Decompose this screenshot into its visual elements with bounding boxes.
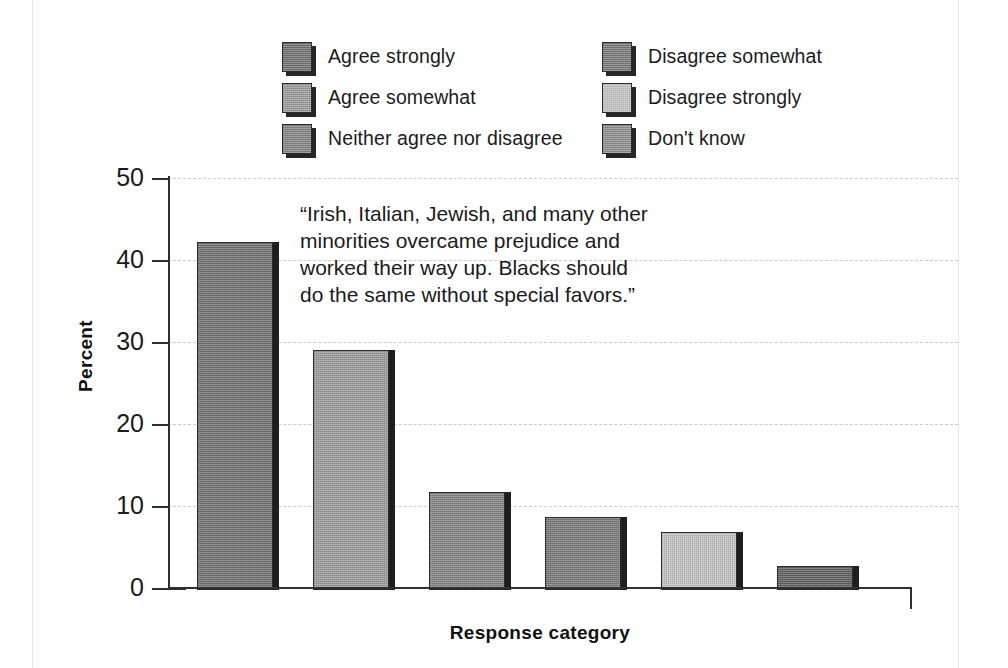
gridline	[168, 424, 958, 425]
y-axis-tick-label: 20	[92, 411, 144, 436]
y-axis-tick-label: 30	[92, 329, 144, 354]
gridline	[168, 178, 958, 179]
bar[interactable]	[313, 350, 389, 590]
bar-chart-plot: 50403020100 Percent Response category “I…	[0, 0, 1008, 668]
bar[interactable]	[661, 532, 737, 590]
y-axis-title: Percent	[75, 266, 97, 446]
y-axis-tick-label: 40	[92, 247, 144, 272]
y-axis-tick-label: 0	[92, 575, 144, 600]
bar[interactable]	[545, 517, 621, 590]
y-axis-line	[168, 176, 170, 590]
y-axis-tick-label: 50	[92, 165, 144, 190]
y-axis-tick-label: 10	[92, 493, 144, 518]
gridline	[168, 342, 958, 343]
gridline	[168, 506, 958, 507]
bar[interactable]	[197, 242, 273, 590]
x-axis-end-tick	[910, 587, 912, 609]
bar[interactable]	[429, 492, 505, 590]
x-axis-title: Response category	[168, 622, 912, 644]
chart-annotation-quote: “Irish, Italian, Jewish, and many other …	[300, 200, 700, 308]
x-axis-line	[168, 587, 912, 589]
